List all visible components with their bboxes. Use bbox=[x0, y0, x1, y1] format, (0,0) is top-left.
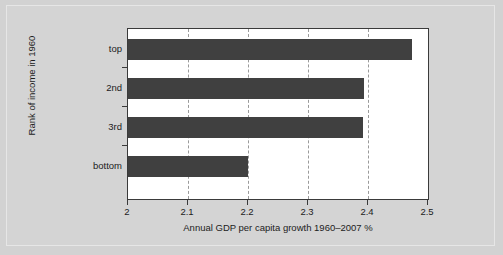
x-axis-tick-2.4 bbox=[367, 200, 368, 205]
x-tick-label-2.4: 2.4 bbox=[347, 206, 387, 217]
x-tick-label-2.3: 2.3 bbox=[287, 206, 327, 217]
y-tick-label-3rd: 3rd bbox=[52, 122, 122, 132]
bar-top bbox=[128, 39, 412, 60]
plot-area bbox=[127, 28, 429, 200]
x-tick-label-2.2: 2.2 bbox=[227, 206, 267, 217]
y-tick-label-bottom: bottom bbox=[52, 161, 122, 171]
x-tick-label-2: 2 bbox=[107, 206, 147, 217]
y-tick-label-2nd: 2nd bbox=[52, 83, 122, 93]
y-axis-title: Rank of income in 1960 bbox=[26, 16, 37, 156]
x-tick-label-2.5: 2.5 bbox=[407, 206, 447, 217]
x-axis-tick-2.5 bbox=[427, 200, 428, 205]
x-axis-tick-2.3 bbox=[307, 200, 308, 205]
x-axis-tick-2.2 bbox=[247, 200, 248, 205]
figure-frame: Rank of income in 1960 top 2nd 3rd botto… bbox=[6, 5, 495, 246]
x-axis-tick-2.1 bbox=[187, 200, 188, 205]
x-axis-title: Annual GDP per capita growth 1960–2007 % bbox=[127, 222, 429, 233]
x-axis-tick-2 bbox=[127, 200, 128, 205]
bar-3rd bbox=[128, 117, 363, 138]
bar-bottom bbox=[128, 156, 248, 177]
y-tick-label-top: top bbox=[52, 44, 122, 54]
bar-2nd bbox=[128, 78, 364, 99]
x-tick-label-2.1: 2.1 bbox=[167, 206, 207, 217]
